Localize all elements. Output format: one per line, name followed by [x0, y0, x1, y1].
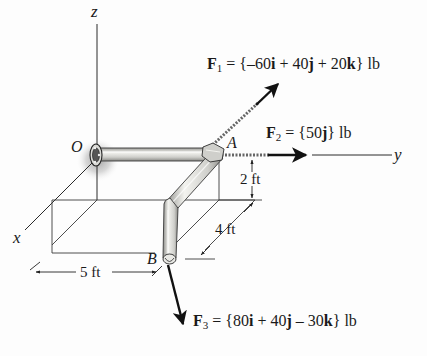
x-axis-line [25, 163, 92, 230]
f3-term-1-vec: i [249, 312, 253, 329]
pipe-segment-vertical [163, 198, 178, 258]
f3-equals: = [212, 312, 221, 329]
point-o-label: O [71, 139, 83, 155]
force-f2-equation: F2 = {50j} lb [266, 125, 351, 143]
f1-symbol: F [207, 55, 217, 72]
force-f3-equation: F3 = {80i + 40j – 30k} lb [193, 313, 357, 331]
dim-5ft-label: 5 ft [80, 265, 100, 280]
f1-term-3-coef: 20 [331, 55, 347, 72]
f1-term-1-vec: i [271, 55, 275, 72]
pipe-end-cap-b [163, 254, 176, 264]
f3-term-2-coef: 40 [270, 312, 286, 329]
f3-term-3-op: – [296, 312, 304, 329]
f1-term-2-op: + [279, 55, 288, 72]
f3-term-3-coef: 30 [308, 312, 324, 329]
f1-open-brace: { [239, 55, 247, 72]
f1-unit: lb [367, 55, 379, 72]
f2-subscript: 2 [276, 131, 282, 143]
f1-close-brace: } [356, 55, 364, 72]
f3-open-brace: { [225, 312, 233, 329]
dim-2ft-label: 2 ft [240, 172, 260, 187]
z-axis-label: z [91, 3, 98, 20]
pipe-segment-oa [100, 148, 215, 161]
f3-close-brace: } [333, 312, 341, 329]
x-axis-label: x [13, 229, 21, 246]
f2-term-1-coef: 50 [306, 124, 322, 141]
f2-symbol: F [266, 124, 276, 141]
f1-arrow [256, 84, 278, 105]
y-axis-label: y [394, 146, 402, 163]
f1-term-1-coef: –60 [247, 55, 271, 72]
f2-open-brace: { [298, 124, 306, 141]
dim-4ft-label: 4 ft [215, 222, 235, 237]
support-hub-o [90, 144, 102, 166]
point-b-label: B [147, 251, 157, 267]
f3-term-2-vec: j [286, 312, 291, 329]
f2-unit: lb [339, 124, 351, 141]
f1-term-2-coef: 40 [292, 55, 308, 72]
f1-term-3-vec: k [347, 55, 356, 72]
f1-term-3-op: + [318, 55, 327, 72]
f3-unit: lb [344, 312, 356, 329]
f1-term-2-vec: j [308, 55, 313, 72]
diagram-canvas: z x y O A B 2 ft 4 ft 5 ft F1 = {–60i + … [0, 0, 427, 356]
f3-term-1-coef: 80 [233, 312, 249, 329]
point-a-label: A [227, 135, 237, 151]
f3-term-3-vec: k [324, 312, 333, 329]
f1-subscript: 1 [217, 62, 223, 74]
force-f1-equation: F1 = {–60i + 40j + 20k} lb [207, 56, 380, 74]
f3-symbol: F [193, 312, 203, 329]
f3-term-2-op: + [257, 312, 266, 329]
f2-close-brace: } [327, 124, 335, 141]
diagram-graphics [0, 0, 427, 356]
f3-arrow [168, 265, 183, 324]
f2-equals: = [285, 124, 294, 141]
f1-equals: = [226, 55, 235, 72]
f3-subscript: 3 [203, 319, 209, 331]
